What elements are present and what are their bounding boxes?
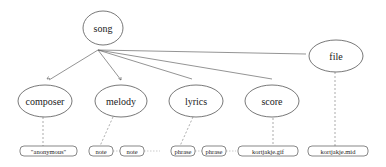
leaf-note-2-label: note: [126, 148, 137, 155]
leaf-kortjakje-gif: kortjakje.gif: [238, 146, 298, 156]
leaf-phrase-1-label: phrase: [175, 148, 192, 155]
node-score: score: [245, 85, 299, 117]
node-composer: composer: [18, 85, 72, 117]
node-composer-label: composer: [26, 96, 66, 107]
leaf-phrase-2: phrase: [202, 146, 226, 156]
node-song: song: [83, 11, 123, 45]
leaf-kortjakje-mid: kortjakje.mid: [308, 146, 368, 156]
edge-song-composer: [49, 50, 98, 80]
edge-song-melody: [98, 50, 121, 80]
leaf-note-2: note: [120, 146, 144, 156]
node-lyrics: lyrics: [169, 85, 223, 117]
node-file: file: [309, 40, 363, 72]
arrowhead-composer-icon: [47, 77, 50, 80]
node-lyrics-label: lyrics: [185, 96, 207, 107]
edge-song-score: [98, 50, 272, 79]
leaf-anonymous: "anonymous": [20, 146, 77, 156]
node-song-label: song: [94, 23, 113, 34]
node-file-label: file: [329, 51, 343, 62]
leaf-phrase-2-label: phrase: [206, 148, 223, 155]
edge-song-file: [98, 50, 306, 54]
leaf-note-1-label: note: [95, 148, 106, 155]
dashed-lyrics-phrase: [180, 117, 193, 146]
node-melody-label: melody: [106, 96, 136, 107]
node-score-label: score: [261, 96, 283, 107]
node-melody: melody: [95, 85, 147, 117]
leaf-kortjakje-mid-label: kortjakje.mid: [321, 148, 357, 155]
leaf-kortjakje-gif-label: kortjakje.gif: [252, 148, 285, 155]
dashed-melody-note: [100, 117, 113, 146]
song-structure-diagram: song file composer melody lyrics score "…: [0, 0, 386, 167]
leaf-phrase-1: phrase: [171, 146, 195, 156]
leaf-anonymous-label: "anonymous": [31, 148, 67, 155]
edge-song-lyrics: [98, 50, 192, 79]
leaf-note-1: note: [89, 146, 113, 156]
